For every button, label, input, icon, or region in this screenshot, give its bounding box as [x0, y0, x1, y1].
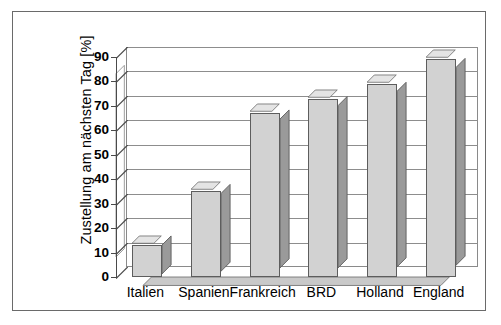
y-tick-label: 10: [94, 246, 109, 260]
bar: [308, 89, 338, 277]
bar-top-face: [308, 89, 338, 99]
figure-frame: Zustellung am nächsten Tag [%] 010203040…: [12, 11, 486, 311]
bar-front-face: [132, 245, 162, 277]
bar-front-face: [191, 191, 221, 277]
bar-front-face: [308, 99, 338, 277]
bar-side-face: [221, 180, 231, 277]
tick-depth-connector: [116, 194, 130, 208]
tick-depth-connector: [116, 218, 130, 232]
bar-side-face: [456, 48, 466, 277]
y-tick-label: 0: [101, 270, 109, 284]
gridline: [126, 47, 478, 48]
bar-top-face: [367, 74, 397, 84]
tick-depth-connector: [116, 243, 130, 257]
bar-side-face: [397, 73, 407, 277]
bar-front-face: [426, 59, 456, 277]
tick-depth-connector: [116, 71, 130, 85]
bar: [367, 74, 397, 277]
bar-side-face: [162, 234, 172, 277]
bar-front-face: [367, 84, 397, 277]
y-tick-label: 60: [94, 124, 109, 138]
x-axis-label: England: [403, 284, 474, 300]
bar-top-face: [191, 181, 221, 191]
plot-area: 0102030405060708090: [116, 57, 468, 277]
bar: [250, 103, 280, 277]
y-tick-label: 40: [94, 172, 109, 186]
tick-depth-connector: [116, 145, 130, 159]
bar-front-face: [250, 113, 280, 277]
bar-top-face: [250, 103, 280, 113]
chart-figure: Zustellung am nächsten Tag [%] 010203040…: [0, 0, 501, 325]
bar-side-face: [338, 88, 348, 277]
tick-depth-connector: [116, 47, 130, 61]
bar: [426, 49, 456, 277]
y-tick-label: 80: [94, 75, 109, 89]
bar-top-face: [426, 49, 456, 59]
bar: [132, 235, 162, 277]
y-tick-label: 20: [94, 221, 109, 235]
bar: [191, 181, 221, 277]
bar-side-face: [280, 102, 290, 277]
bar-top-face: [132, 235, 162, 245]
y-tick-label: 90: [94, 50, 109, 64]
tick-depth-connector: [116, 96, 130, 110]
y-axis-title: Zustellung am nächsten Tag [%]: [78, 20, 94, 260]
y-tick-label: 70: [94, 99, 109, 113]
tick-depth-connector: [116, 169, 130, 183]
y-tick-label: 50: [94, 148, 109, 162]
y-tick-label: 30: [94, 197, 109, 211]
tick-depth-connector: [116, 120, 130, 134]
